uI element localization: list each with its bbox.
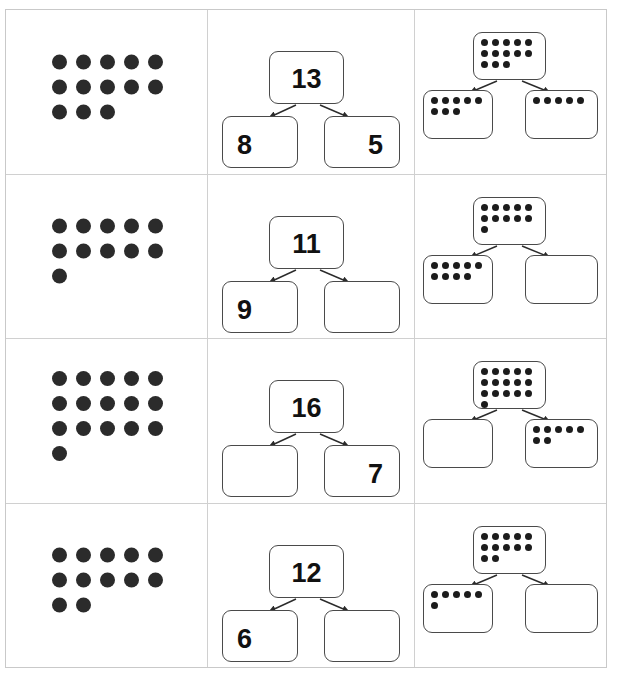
dot — [514, 533, 521, 540]
dot — [503, 533, 510, 540]
dot-array-row — [52, 548, 172, 573]
number-bond-left-part-box[interactable]: 9 — [222, 281, 298, 333]
dot-array-row — [52, 573, 172, 598]
dot-array-row — [431, 273, 486, 284]
dot-array — [431, 591, 486, 613]
dot-array-row — [52, 244, 172, 269]
dot — [124, 79, 139, 94]
dot — [442, 108, 449, 115]
number-bond-numeric: 167 — [208, 339, 414, 503]
number-bond-left-part-box[interactable] — [222, 445, 298, 497]
number-bond-whole-box[interactable]: 12 — [269, 545, 344, 598]
dot — [514, 390, 521, 397]
dot — [503, 379, 510, 386]
dot-array — [52, 548, 172, 623]
dot — [76, 573, 91, 588]
dot — [52, 573, 67, 588]
worksheet-grid: 1385119167126 — [5, 9, 607, 668]
dot-bond-whole-box[interactable] — [473, 361, 546, 409]
dot — [492, 368, 499, 375]
number-bond-whole-box[interactable]: 13 — [269, 51, 344, 104]
cell-dot-bond — [415, 504, 606, 668]
dot — [76, 371, 91, 386]
dot — [525, 39, 532, 46]
dot — [52, 219, 67, 234]
dot-bond-whole-box[interactable] — [473, 197, 546, 245]
dot — [100, 244, 115, 259]
dot — [124, 371, 139, 386]
dot — [481, 390, 488, 397]
cell-number-bond: 167 — [208, 339, 415, 503]
dot-array-row — [52, 54, 172, 79]
dot-array-row — [481, 544, 536, 555]
dot — [503, 368, 510, 375]
number-bond-right-part-box-value — [325, 653, 399, 661]
dot — [503, 215, 510, 222]
dot — [514, 544, 521, 551]
dot-bond-left-part-box[interactable] — [423, 419, 493, 468]
number-bond-numeric: 119 — [208, 175, 414, 339]
dot-array-row — [52, 598, 172, 623]
dot — [481, 61, 488, 68]
dot — [464, 97, 471, 104]
cell-dot-array — [6, 504, 208, 668]
number-bond-pictorial — [415, 10, 606, 174]
number-bond-whole-box[interactable]: 11 — [269, 216, 344, 269]
dot — [100, 79, 115, 94]
dot — [533, 426, 540, 433]
dot — [76, 244, 91, 259]
dot — [148, 573, 163, 588]
dot — [481, 215, 488, 222]
dot — [52, 396, 67, 411]
dot — [514, 215, 521, 222]
dot-array-row — [52, 269, 172, 294]
dot — [492, 39, 499, 46]
dot — [525, 390, 532, 397]
dot-array-row — [481, 204, 536, 215]
dot — [475, 591, 482, 598]
dot-bond-left-part-box[interactable] — [423, 584, 493, 633]
dot — [52, 446, 67, 461]
dot — [453, 97, 460, 104]
dot-bond-left-part-box[interactable] — [423, 255, 493, 304]
dot — [481, 368, 488, 375]
dot — [124, 54, 139, 69]
dot — [431, 602, 438, 609]
dot-bond-left-part-box[interactable] — [423, 90, 493, 139]
number-bond-whole-box-value: 11 — [270, 231, 343, 268]
dot-array-row — [52, 421, 172, 446]
dot — [464, 273, 471, 280]
number-bond-right-part-box[interactable] — [324, 610, 400, 662]
number-bond-left-part-box[interactable]: 8 — [222, 116, 298, 168]
dot — [481, 379, 488, 386]
dot — [148, 421, 163, 436]
number-bond-left-part-box[interactable]: 6 — [222, 610, 298, 662]
dot — [481, 39, 488, 46]
dot-array-row — [52, 446, 172, 471]
dot-bond-right-part-box[interactable] — [525, 255, 598, 304]
dot-array-row — [431, 262, 486, 273]
dot-bond-right-part-box[interactable] — [525, 90, 598, 139]
dot — [52, 54, 67, 69]
dot-bond-whole-box[interactable] — [473, 526, 546, 574]
number-bond-right-part-box[interactable] — [324, 281, 400, 333]
dot — [475, 97, 482, 104]
number-bond-right-part-box[interactable]: 7 — [324, 445, 400, 497]
cell-dot-bond — [415, 339, 606, 503]
dot-bond-whole-box[interactable] — [473, 32, 546, 80]
dot-bond-right-part-box[interactable] — [525, 584, 598, 633]
dot-array-row — [431, 602, 486, 613]
dot — [431, 591, 438, 598]
dot-bond-right-part-box[interactable] — [525, 419, 598, 468]
dot — [76, 548, 91, 563]
dot — [514, 368, 521, 375]
dot — [100, 104, 115, 119]
number-bond-left-part-box-value — [223, 488, 297, 496]
dot — [503, 390, 510, 397]
dot — [525, 533, 532, 540]
number-bond-right-part-box[interactable]: 5 — [324, 116, 400, 168]
dot — [52, 421, 67, 436]
dot — [577, 426, 584, 433]
number-bond-whole-box[interactable]: 16 — [269, 380, 344, 433]
worksheet-row: 1385 — [6, 10, 606, 175]
